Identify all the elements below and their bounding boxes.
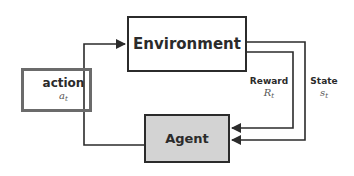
reward-label: Reward bbox=[248, 76, 290, 87]
reward-edge-label: Reward Rt bbox=[248, 76, 290, 102]
environment-label: Environment bbox=[133, 35, 241, 53]
agent-node: Agent bbox=[144, 114, 230, 163]
state-symbol: st bbox=[305, 87, 343, 102]
agent-label: Agent bbox=[165, 131, 209, 146]
state-label: State bbox=[305, 76, 343, 87]
action-symbol: at bbox=[59, 90, 68, 105]
rl-diagram: Environment Agent action at Reward Rt St… bbox=[0, 0, 354, 176]
action-node: action at bbox=[21, 68, 92, 112]
environment-node: Environment bbox=[127, 16, 247, 72]
reward-symbol: Rt bbox=[248, 87, 290, 102]
state-edge-label: State st bbox=[305, 76, 343, 102]
action-label: action bbox=[43, 76, 85, 90]
